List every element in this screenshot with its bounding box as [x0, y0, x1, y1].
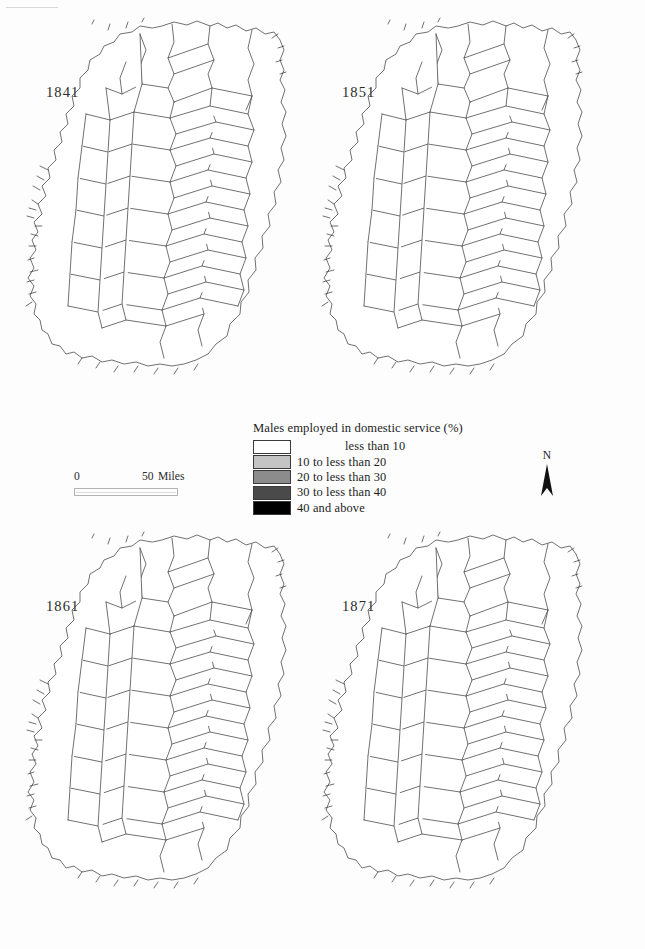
- legend-swatch-class-3: [253, 470, 291, 484]
- ireland-map-svg: [318, 14, 618, 414]
- map-panel-1851[interactable]: 1851: [318, 14, 618, 414]
- legend-title: Males employed in domestic service (%): [253, 421, 513, 436]
- legend-row-class-4[interactable]: 30 to less than 40: [253, 485, 513, 500]
- legend-swatch-class-1: [253, 440, 291, 454]
- legend-class-list: less than 10 10 to less than 20 20 to le…: [253, 439, 513, 516]
- figure-page: 1841: [0, 0, 645, 949]
- north-arrow: N: [534, 450, 560, 497]
- legend-swatch-class-5: [253, 501, 291, 515]
- scale-bar-max-label: 50: [142, 470, 154, 483]
- scale-bar-units-label: Miles: [158, 470, 184, 483]
- page-top-rule: [6, 7, 58, 8]
- ireland-map-svg: [22, 14, 322, 414]
- legend-row-class-3[interactable]: 20 to less than 30: [253, 470, 513, 485]
- ireland-map-svg: [318, 528, 618, 928]
- legend-label-class-3: 20 to less than 30: [291, 470, 386, 485]
- panel-year-label: 1851: [342, 84, 375, 101]
- map-panel-1861[interactable]: 1861: [22, 528, 322, 928]
- panel-year-label: 1841: [46, 84, 79, 101]
- north-arrow-label: N: [534, 450, 560, 462]
- panel-year-label: 1861: [46, 598, 79, 615]
- scale-bar: 0 50 Miles: [74, 470, 202, 485]
- scale-bar-labels: 0 50 Miles: [74, 470, 202, 485]
- panel-year-label: 1871: [342, 598, 375, 615]
- legend-label-class-5: 40 and above: [291, 501, 365, 516]
- legend-swatch-class-4: [253, 486, 291, 500]
- legend-label-class-1: less than 10: [291, 439, 405, 454]
- north-arrow-icon: [538, 463, 556, 497]
- scale-bar-min-label: 0: [74, 470, 80, 483]
- map-panel-1841[interactable]: 1841: [22, 14, 322, 414]
- ireland-map-svg: [22, 528, 322, 928]
- map-panel-1871[interactable]: 1871: [318, 528, 618, 928]
- map-legend: Males employed in domestic service (%) l…: [253, 421, 513, 516]
- legend-row-class-2[interactable]: 10 to less than 20: [253, 454, 513, 469]
- legend-swatch-class-2: [253, 455, 291, 469]
- legend-label-class-4: 30 to less than 40: [291, 485, 386, 500]
- legend-row-class-1[interactable]: less than 10: [253, 439, 513, 454]
- legend-row-class-5[interactable]: 40 and above: [253, 501, 513, 516]
- scale-bar-graphic: [74, 488, 178, 496]
- legend-label-class-2: 10 to less than 20: [291, 455, 386, 470]
